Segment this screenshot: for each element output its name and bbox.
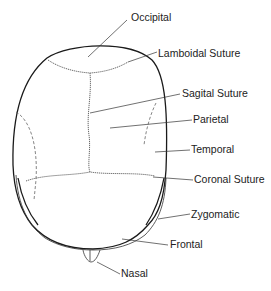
label-lamboidal-suture: Lamboidal Suture [158,47,240,59]
temporal-line-left [16,112,36,200]
label-parietal: Parietal [193,113,229,125]
leader-parietal [110,120,192,128]
sagittal-suture-line [88,73,90,172]
label-frontal: Frontal [170,238,203,250]
leader-temporal [155,150,190,152]
label-sagital-suture: Sagital Suture [182,87,248,99]
leader-coronal [153,177,193,180]
label-zygomatic: Zygomatic [191,208,239,220]
leader-zygomatic [158,214,190,219]
leader-nasal [97,262,120,274]
label-temporal: Temporal [191,143,234,155]
skull-diagram: Occipital Lamboidal Suture Sagital Sutur… [0,0,271,291]
label-occipital: Occipital [131,11,171,23]
label-nasal: Nasal [121,267,148,279]
zygomatic-outline-right [93,178,166,250]
leader-occipital [88,20,127,57]
lambdoidal-suture-line [48,60,128,73]
zygomatic-outline-left [16,175,93,250]
coronal-suture-line [26,172,155,181]
label-coronal-suture: Coronal Suture [194,173,265,185]
nasal-bone [83,250,100,262]
